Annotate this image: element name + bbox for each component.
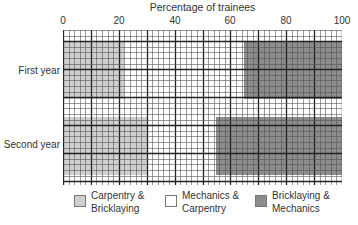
- legend-swatch-white: [165, 195, 177, 207]
- legend-label: Mechanics & Carpentry: [182, 189, 239, 215]
- bar-second-year-bricklaying-mechanics: [216, 117, 342, 175]
- x-tick-80: 80: [280, 15, 291, 26]
- x-tick-40: 40: [169, 15, 180, 26]
- legend-label-line2: Carpentry: [182, 202, 239, 215]
- bar-second-year-carpentry-bricklaying: [63, 117, 147, 175]
- legend-label-line1: Carpentry &: [91, 189, 144, 202]
- legend-label-line2: Bricklaying: [91, 202, 144, 215]
- y-label-first-year: First year: [0, 65, 60, 76]
- legend-label-line1: Bricklaying &: [272, 189, 330, 202]
- legend-swatch-dark: [255, 195, 267, 207]
- y-label-second-year: Second year: [0, 139, 60, 150]
- bar-second-year-mechanics-carpentry: [147, 117, 217, 175]
- x-tick-0: 0: [60, 15, 66, 26]
- legend-item-bricklaying-mechanics: Bricklaying & Mechanics: [255, 189, 330, 215]
- legend-item-mechanics-carpentry: Mechanics & Carpentry: [165, 189, 239, 215]
- legend-swatch-light: [74, 195, 86, 207]
- x-tick-100: 100: [334, 15, 351, 26]
- bar-first-year-mechanics-carpentry: [124, 42, 244, 99]
- legend-label-line1: Mechanics &: [182, 189, 239, 202]
- chart-title: Percentage of trainees: [0, 1, 358, 13]
- x-tick-60: 60: [224, 15, 235, 26]
- legend-label: Bricklaying & Mechanics: [272, 189, 330, 215]
- bar-first-year-carpentry-bricklaying: [63, 42, 124, 99]
- legend-label-line2: Mechanics: [272, 202, 330, 215]
- x-tick-20: 20: [113, 15, 124, 26]
- bar-first-year-bricklaying-mechanics: [244, 42, 342, 99]
- plot-area: [63, 30, 342, 185]
- legend-item-carpentry-bricklaying: Carpentry & Bricklaying: [74, 189, 144, 215]
- legend-label: Carpentry & Bricklaying: [91, 189, 144, 215]
